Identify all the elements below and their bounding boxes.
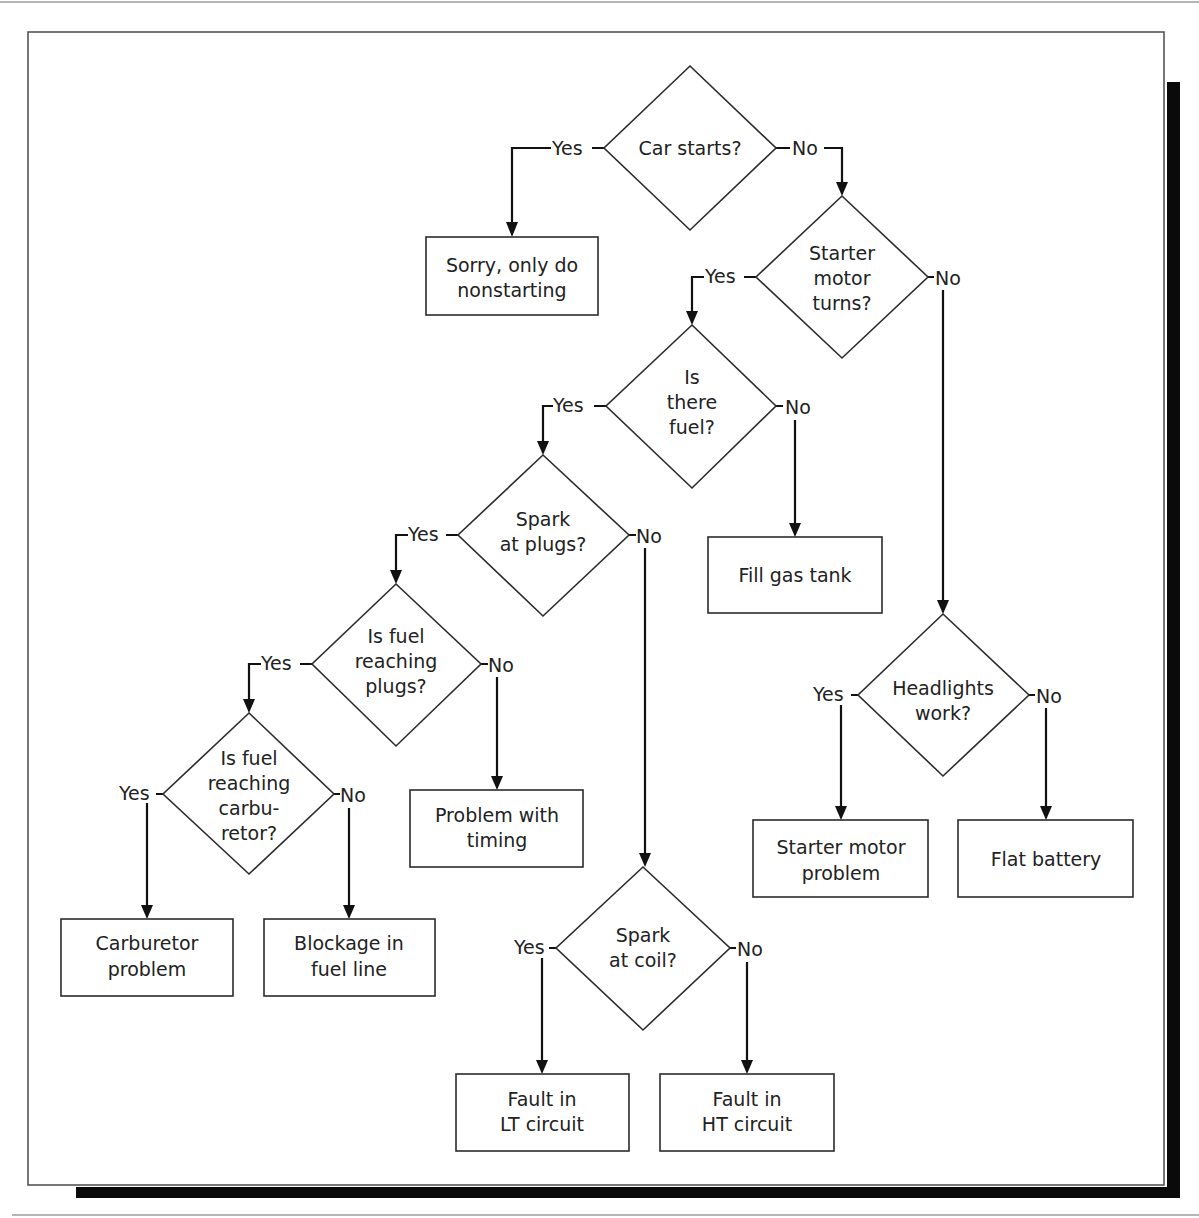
decision-text: Spark (616, 924, 671, 946)
no-label: No (488, 654, 514, 676)
decision-text: there (667, 391, 717, 413)
outcome-problem-with-timing[interactable]: Problem with timing (410, 790, 583, 867)
decision-text: at coil? (609, 949, 677, 971)
no-label: No (785, 396, 811, 418)
outcome-text: Fault in (713, 1088, 782, 1110)
outcome-text: Fault in (508, 1088, 577, 1110)
outcome-carburetor-problem[interactable]: Carburetor problem (61, 919, 233, 996)
decision-text: fuel? (669, 416, 715, 438)
outcome-text: Sorry, only do (446, 254, 578, 276)
outcome-text: nonstarting (457, 279, 566, 301)
decision-text: Is (684, 366, 700, 388)
diagram-frame (28, 32, 1164, 1185)
decision-text: work? (915, 702, 971, 724)
frame-shadow-right (1167, 82, 1180, 1198)
yes-label: Yes (407, 523, 439, 545)
no-label: No (737, 938, 763, 960)
outcome-fault-in-lt-circuit[interactable]: Fault in LT circuit (456, 1074, 629, 1151)
outcome-text: HT circuit (702, 1113, 792, 1135)
yes-label: Yes (704, 265, 736, 287)
outcome-starter-motor-problem[interactable]: Starter motor problem (753, 820, 928, 897)
no-label: No (935, 267, 961, 289)
outcome-text: Blockage in (294, 932, 404, 954)
decision-text: carbu- (219, 797, 280, 819)
yes-label: Yes (513, 936, 545, 958)
outcome-text: problem (802, 862, 881, 884)
decision-text: Headlights (892, 677, 994, 699)
outcome-fill-gas-tank[interactable]: Fill gas tank (708, 537, 882, 613)
outcome-text: problem (108, 958, 187, 980)
no-label: No (1036, 685, 1062, 707)
outcome-text: Problem with (435, 804, 559, 826)
outcome-text: timing (467, 829, 528, 851)
decision-text: retor? (221, 822, 277, 844)
decision-text: Car starts? (639, 137, 742, 159)
no-label: No (340, 784, 366, 806)
no-label: No (636, 525, 662, 547)
no-label: No (792, 137, 818, 159)
decision-text: Is fuel (220, 747, 277, 769)
outcome-text: LT circuit (500, 1113, 584, 1135)
yes-label: Yes (552, 394, 584, 416)
outcome-text: Fill gas tank (738, 564, 851, 586)
yes-label: Yes (118, 782, 150, 804)
decision-text: Starter (809, 242, 875, 264)
decision-text: plugs? (365, 675, 426, 697)
decision-text: motor (813, 267, 870, 289)
decision-text: reaching (208, 772, 291, 794)
outcome-text: Flat battery (991, 848, 1102, 870)
decision-text: reaching (355, 650, 438, 672)
frame-shadow-bottom (76, 1187, 1180, 1198)
yes-label: Yes (260, 652, 292, 674)
flowchart-canvas: Yes No Yes No Yes No Yes (0, 0, 1199, 1218)
decision-text: at plugs? (500, 533, 587, 555)
decision-text: Spark (516, 508, 571, 530)
outcome-sorry-only-nonstarting[interactable]: Sorry, only do nonstarting (426, 237, 598, 315)
outcome-blockage-in-fuel-line[interactable]: Blockage in fuel line (264, 919, 435, 996)
yes-label: Yes (551, 137, 583, 159)
decision-text: Is fuel (367, 625, 424, 647)
outcome-text: Starter motor (777, 836, 906, 858)
outcome-fault-in-ht-circuit[interactable]: Fault in HT circuit (660, 1074, 834, 1151)
yes-label: Yes (812, 683, 844, 705)
decision-text: turns? (813, 292, 872, 314)
outcome-flat-battery[interactable]: Flat battery (958, 820, 1133, 897)
outcome-text: Carburetor (96, 932, 199, 954)
outcome-text: fuel line (311, 958, 387, 980)
